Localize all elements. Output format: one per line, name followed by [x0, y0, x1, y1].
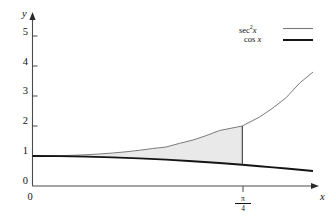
legend-cos-base: cos — [244, 34, 255, 44]
figure-container: y x 5 4 3 2 1 0 0 π 4 sec2x cos x — [0, 0, 332, 223]
legend-label-sec-squared: sec2x — [239, 24, 257, 34]
legend-label-cos: cos x — [244, 35, 261, 44]
y-tick-label-5: 5 — [14, 27, 28, 38]
x-tick-label-pi-over-four: π 4 — [235, 195, 251, 213]
y-axis-ticks — [33, 36, 38, 156]
fraction-denominator-four: 4 — [235, 205, 251, 213]
x-axis-label: x — [320, 192, 325, 203]
y-tick-label-0: 0 — [14, 176, 28, 187]
y-tick-label-4: 4 — [14, 57, 28, 68]
fraction-numerator-pi: π — [235, 195, 251, 203]
y-tick-label-3: 3 — [14, 86, 28, 97]
x-axis-arrow-icon — [311, 183, 319, 189]
sec-squared-curve — [33, 72, 314, 156]
chart-plot-area — [0, 0, 332, 223]
y-tick-label-1: 1 — [14, 146, 28, 157]
x-origin-label: 0 — [23, 192, 37, 203]
y-axis-label: y — [22, 9, 27, 20]
y-axis-arrow-icon — [29, 12, 35, 20]
y-tick-label-2: 2 — [14, 116, 28, 127]
legend-cos-variable: x — [257, 34, 261, 44]
